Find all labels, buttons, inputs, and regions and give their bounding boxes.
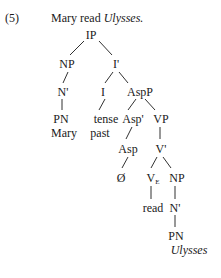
v-subscript: E xyxy=(155,178,159,186)
edge-vbar-np xyxy=(163,157,171,168)
edge-asp-null xyxy=(122,157,128,168)
node-null-asp: Ø xyxy=(117,172,126,184)
edge-aspp-vp xyxy=(145,99,155,110)
node-asp-head: Asp xyxy=(118,143,137,155)
tree-edges xyxy=(0,0,221,278)
edge-ip-ibar xyxy=(99,41,112,55)
word-ulysses: Ulysses xyxy=(171,244,208,256)
node-pn-subject: PN xyxy=(53,113,68,125)
node-vp: VP xyxy=(153,113,168,125)
node-i-head: I xyxy=(101,86,105,98)
node-v-bar: V' xyxy=(156,143,167,155)
word-past: past xyxy=(90,127,109,139)
node-aspp: AspP xyxy=(127,86,153,98)
node-n-bar-object: N' xyxy=(170,202,181,214)
edge-aspbar-asp xyxy=(126,127,132,139)
edge-ibar-aspp xyxy=(119,72,128,83)
node-tense: tense xyxy=(94,113,119,125)
edge-np-nbar xyxy=(63,72,68,83)
edge-ibar-i xyxy=(105,72,113,83)
edge-vbar-v xyxy=(151,157,157,168)
edge-i-tense xyxy=(99,99,105,110)
edge-ip-np xyxy=(70,41,84,55)
node-v-head: VE xyxy=(147,172,160,188)
node-pn-object: PN xyxy=(168,230,183,242)
node-asp-bar: Asp' xyxy=(122,113,144,125)
node-np-object: NP xyxy=(169,172,184,184)
edge-aspp-aspbar xyxy=(128,99,136,110)
word-mary: Mary xyxy=(51,127,77,139)
node-i-bar: I' xyxy=(113,58,119,70)
v-label: V xyxy=(147,171,156,185)
node-ip: IP xyxy=(86,29,97,41)
word-read: read xyxy=(143,202,164,214)
node-np-subject: NP xyxy=(59,58,74,70)
node-n-bar-subject: N' xyxy=(58,86,69,98)
